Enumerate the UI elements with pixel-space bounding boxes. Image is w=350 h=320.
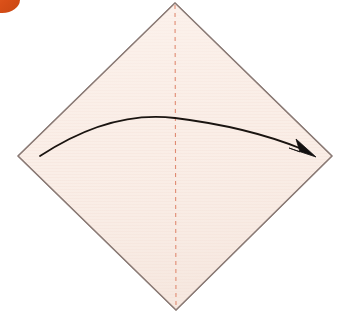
diagram-canvas [0, 0, 350, 320]
origami-diagram-figure [0, 0, 350, 320]
